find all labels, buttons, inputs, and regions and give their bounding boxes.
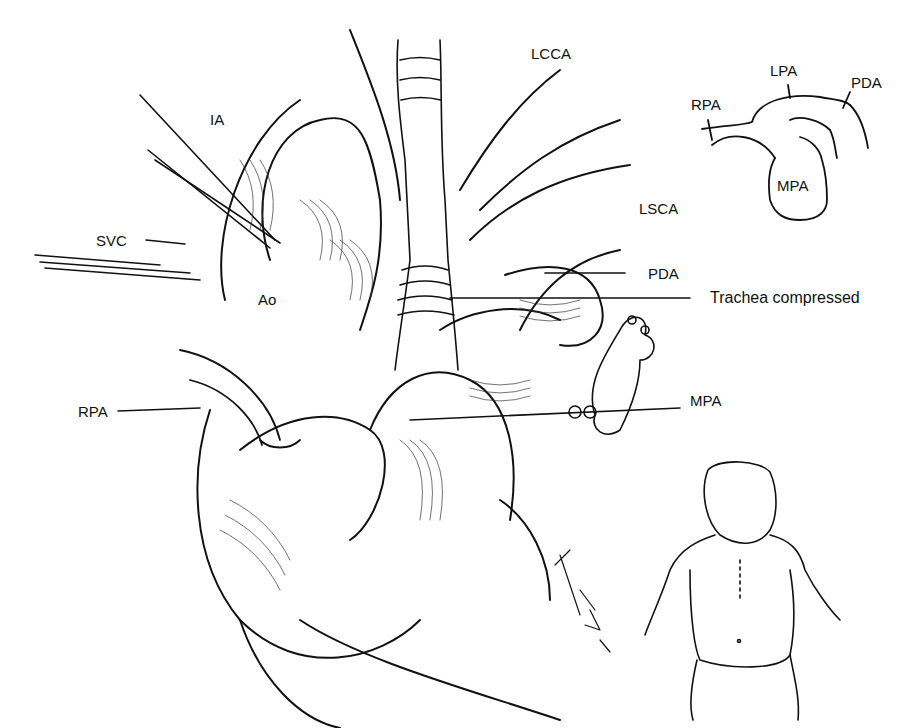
infant-drawing	[645, 462, 840, 720]
trachea-drawing	[395, 40, 458, 370]
label-lsca: LSCA	[639, 201, 678, 216]
label-ao: Ao	[258, 292, 276, 307]
inset-pa-schematic	[702, 85, 868, 220]
label-ia: IA	[210, 112, 224, 127]
rpa-tube	[180, 350, 300, 448]
inset-label-pda: PDA	[851, 75, 882, 90]
artist-signature	[555, 550, 610, 652]
label-svc: SVC	[96, 233, 127, 248]
leader-lines	[118, 240, 690, 420]
label-rpa: RPA	[78, 404, 108, 419]
inset-label-mpa: MPA	[777, 178, 808, 193]
inset-label-lpa: LPA	[770, 63, 797, 78]
inset-label-rpa: RPA	[691, 97, 721, 112]
label-lcca: LCCA	[531, 46, 571, 61]
heart-outline	[198, 372, 560, 728]
label-mpa: MPA	[690, 393, 721, 408]
label-trachea-compressed: Trachea compressed	[710, 290, 860, 306]
anatomical-illustration	[0, 0, 911, 728]
left-atrial-appendage	[569, 316, 654, 434]
label-pda: PDA	[648, 266, 679, 281]
instrument-lines	[35, 95, 280, 280]
